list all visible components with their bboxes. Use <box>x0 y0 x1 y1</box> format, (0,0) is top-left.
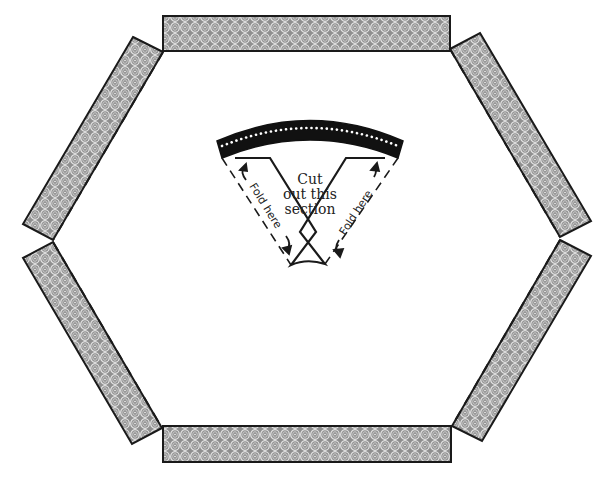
fold-label-left: Fold here <box>246 181 284 231</box>
strip-top-right <box>450 33 591 237</box>
strip-top <box>163 16 450 51</box>
instruction-line-3: section <box>285 201 336 217</box>
fold-label-right: Fold here <box>337 188 376 238</box>
strip-bottom <box>163 426 451 462</box>
hexagon-template-diagram: Cut out this section Fold here Fold here <box>0 0 611 478</box>
strip-top-left <box>23 37 163 240</box>
center-cutout-piece: Cut out this section Fold here Fold here <box>217 121 403 266</box>
strip-bottom-right <box>452 240 591 441</box>
arc-band <box>217 121 403 159</box>
strip-bottom-left <box>23 242 162 444</box>
instruction-line-2: out this <box>283 186 337 202</box>
instruction-line-1: Cut <box>297 171 323 187</box>
